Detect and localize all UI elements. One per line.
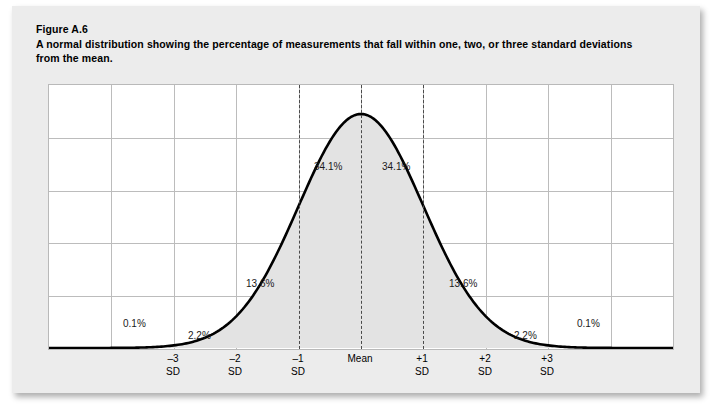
- chart-plot-area: 0.1% 2.2% 13.6% 34.1% 34.1% 13.6% 2.2% 0…: [48, 84, 674, 350]
- x-tick-minus1sd: –1 SD: [268, 352, 328, 378]
- x-tick-label-line2: SD: [392, 365, 452, 378]
- dashed-marker-plus1sd: [423, 85, 424, 349]
- x-tick-label-line1: +1: [392, 352, 452, 365]
- x-tick-label-line2: SD: [205, 365, 265, 378]
- dashed-marker-minus1sd: [299, 85, 300, 349]
- x-tick-label-line1: –3: [143, 352, 203, 365]
- region-label-2: 13.6%: [246, 278, 274, 289]
- x-tick-minus3sd: –3 SD: [143, 352, 203, 378]
- region-label-7: 0.1%: [577, 318, 600, 329]
- x-tick-label-line1: +3: [517, 352, 577, 365]
- x-tick-plus3sd: +3 SD: [517, 352, 577, 378]
- x-tick-plus1sd: +1 SD: [392, 352, 452, 378]
- x-tick-label-line2: SD: [143, 365, 203, 378]
- x-tick-label-line2: SD: [455, 365, 515, 378]
- x-tick-label-line1: –2: [205, 352, 265, 365]
- dashed-marker-mean: [361, 85, 362, 349]
- x-tick-label-line1: –1: [268, 352, 328, 365]
- figure-card: Figure A.6 A normal distribution showing…: [12, 6, 700, 393]
- figure-caption-line2: from the mean.: [36, 51, 676, 66]
- region-label-6: 2.2%: [514, 330, 537, 341]
- region-label-0: 0.1%: [123, 318, 146, 329]
- region-label-4: 34.1%: [382, 161, 410, 172]
- figure-caption: Figure A.6 A normal distribution showing…: [36, 22, 676, 66]
- figure-number: Figure A.6: [36, 22, 676, 37]
- x-tick-label-line2: SD: [517, 365, 577, 378]
- region-label-1: 2.2%: [188, 330, 211, 341]
- x-tick-label-line1: Mean: [330, 352, 390, 365]
- figure-caption-line1: A normal distribution showing the percen…: [36, 37, 676, 52]
- x-tick-label-line1: +2: [455, 352, 515, 365]
- x-tick-mean: Mean: [330, 352, 390, 365]
- region-label-5: 13.6%: [449, 278, 477, 289]
- x-tick-plus2sd: +2 SD: [455, 352, 515, 378]
- x-tick-label-line2: SD: [268, 365, 328, 378]
- region-label-3: 34.1%: [314, 161, 342, 172]
- x-tick-minus2sd: –2 SD: [205, 352, 265, 378]
- chart-plot-inner: 0.1% 2.2% 13.6% 34.1% 34.1% 13.6% 2.2% 0…: [49, 85, 673, 349]
- x-axis-labels: –3 SD –2 SD –1 SD Mean +1 SD +2 SD +3 SD: [48, 352, 672, 392]
